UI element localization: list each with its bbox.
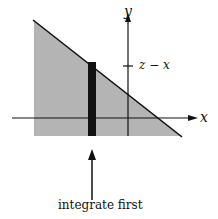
y-axis-label: y (124, 3, 132, 19)
diagram-canvas (0, 0, 218, 219)
annotation-label: integrate first (58, 198, 143, 212)
x-axis-arrow-icon (188, 115, 198, 121)
x-axis-label: x (200, 109, 208, 125)
integration-strip (88, 62, 96, 136)
tick-label: z − x (139, 58, 170, 72)
annotation-arrow-icon (88, 149, 96, 160)
